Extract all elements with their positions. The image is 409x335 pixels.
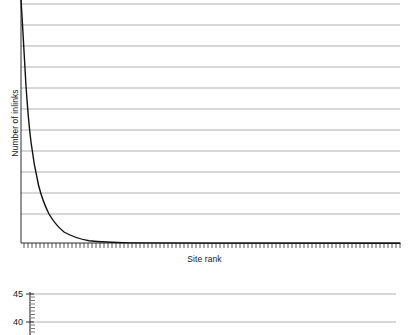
second-chart-partial-figure: 45 40	[0, 272, 409, 335]
chart1-x-axis-label: Site rank	[0, 254, 409, 264]
inlink-distribution-figure: Number of inlinks Site rank	[0, 0, 409, 272]
chart2-ytick-45: 45	[0, 289, 23, 299]
chart2-ytick-40: 40	[0, 317, 23, 327]
chart1-y-axis-label: Number of inlinks	[10, 68, 20, 178]
chart2-gridlines	[30, 294, 396, 322]
chart1-data-curve	[21, 0, 400, 243]
chart2-y-minor-ticks	[31, 297, 35, 332]
chart1-plot-area	[0, 0, 409, 272]
chart2-plot-area	[0, 272, 409, 335]
chart1-gridlines	[21, 4, 400, 214]
